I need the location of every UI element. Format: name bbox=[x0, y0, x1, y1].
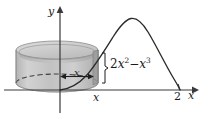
shell-height-label: 2x2−x3 bbox=[110, 58, 151, 70]
x-tick-label-2: 2 bbox=[174, 91, 181, 102]
shell-foot-x-label: x bbox=[93, 92, 99, 103]
height-coefficient: 2 bbox=[110, 57, 118, 71]
height-brace-path bbox=[102, 53, 108, 83]
y-axis-label: y bbox=[48, 6, 54, 17]
cylindrical-shell bbox=[16, 41, 98, 92]
shell-method-figure: y x 2 x x 2x2−x3 bbox=[0, 0, 206, 131]
height-brace bbox=[102, 53, 108, 83]
shell-top-ellipse bbox=[16, 41, 98, 59]
figure-canvas bbox=[0, 0, 206, 131]
height-operator: − bbox=[129, 57, 139, 71]
height-exponent-2: 3 bbox=[146, 56, 151, 65]
y-axis-arrowhead bbox=[57, 6, 64, 13]
height-variable-2: x bbox=[139, 57, 146, 71]
shell-radius-label: x bbox=[74, 68, 80, 78]
x-axis-label: x bbox=[188, 90, 194, 101]
